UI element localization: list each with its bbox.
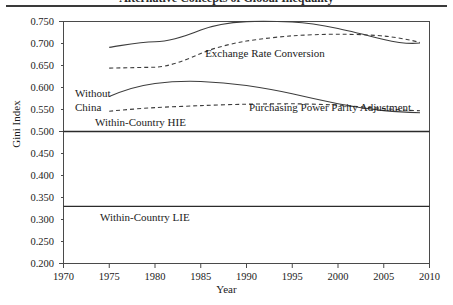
- x-tick-label: 1985: [190, 271, 211, 282]
- y-tick-label: 0.300: [30, 214, 54, 225]
- x-tick-label: 2010: [419, 271, 440, 282]
- x-tick-label: 1970: [53, 271, 74, 282]
- x-axis-title: Year: [0, 283, 453, 295]
- y-tick-label: 0.550: [30, 104, 54, 115]
- y-tick-label: 0.200: [30, 258, 54, 269]
- y-axis: 0.750 0.700 0.650 0.600 0.550 0.500 0.45…: [30, 16, 63, 269]
- x-tick-label: 1975: [99, 271, 120, 282]
- x-axis: 1970 1975 1980 1985 1990 1995 2000 2005 …: [53, 264, 440, 283]
- annotation-purchasing-power-parity-adjustment: Purchasing Power Parity Adjustment: [249, 101, 411, 113]
- series-exchange-rate-conversion: [109, 21, 420, 47]
- y-tick-label: 0.250: [30, 236, 54, 247]
- annotation-within-country-lie: Within-Country LIE: [100, 211, 190, 223]
- y-tick-label: 0.750: [30, 16, 54, 27]
- figure-container: Alternative Concepts of Global Inequalit…: [0, 0, 453, 305]
- y-tick-label: 0.650: [30, 60, 54, 71]
- y-tick-label: 0.500: [30, 126, 54, 137]
- y-tick-label: 0.450: [30, 148, 54, 159]
- annotation-exchange-rate-conversion: Exchange Rate Conversion: [205, 47, 325, 59]
- x-tick-label: 1995: [282, 271, 303, 282]
- y-tick-label: 0.350: [30, 192, 54, 203]
- y-tick-label: 0.600: [30, 82, 54, 93]
- x-tick-label: 1980: [145, 271, 166, 282]
- x-tick-label: 2000: [328, 271, 349, 282]
- annotation-without-china-line1: Without: [75, 87, 111, 99]
- annotation-within-country-hie: Within-Country HIE: [95, 116, 186, 128]
- x-tick-label: 2005: [373, 271, 394, 282]
- y-axis-title: Gini Index: [10, 94, 22, 154]
- x-tick-label: 1990: [236, 271, 257, 282]
- y-tick-label: 0.400: [30, 170, 54, 181]
- y-tick-label: 0.700: [30, 38, 54, 49]
- annotation-without-china-line2: China: [75, 101, 101, 113]
- gini-index-line-chart: 0.750 0.700 0.650 0.600 0.550 0.500 0.45…: [0, 0, 453, 305]
